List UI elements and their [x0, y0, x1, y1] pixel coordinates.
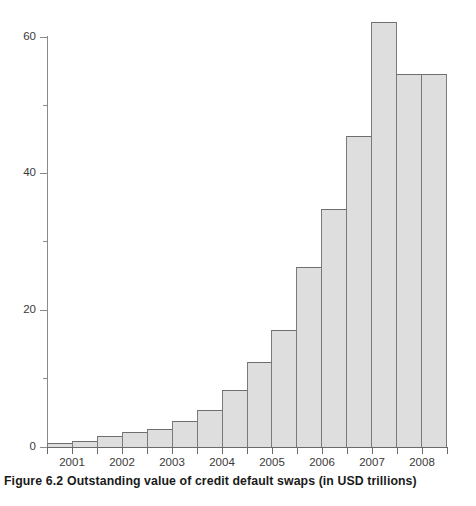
- bar-2005-h2[interactable]: [271, 330, 297, 447]
- bar-2008-h1[interactable]: [396, 74, 422, 447]
- bar-2004-h2[interactable]: [222, 390, 248, 447]
- figure-container: 60 40 20 0: [0, 0, 476, 506]
- bar-2001-h2[interactable]: [72, 441, 98, 447]
- x-tick-label-2007: 2007: [349, 455, 395, 469]
- bar-2006-h1[interactable]: [296, 267, 322, 447]
- x-tick-mark-0: [47, 448, 48, 454]
- x-tick-label-2008: 2008: [399, 455, 445, 469]
- x-tick-mark-3: [122, 448, 123, 454]
- bars-layer: [47, 10, 447, 447]
- x-tick-mark-7: [222, 448, 223, 454]
- bar-2007-h1[interactable]: [346, 136, 372, 447]
- x-tick-mark-14: [397, 448, 398, 454]
- y-tick-label-20: 20: [6, 304, 36, 315]
- x-tick-label-2006: 2006: [299, 455, 345, 469]
- x-tick-label-2003: 2003: [149, 455, 195, 469]
- bar-2008-h2[interactable]: [421, 74, 447, 447]
- figure-number: Figure 6.2: [4, 474, 63, 488]
- y-tick-label-0: 0: [6, 441, 36, 452]
- bar-2007-h2[interactable]: [371, 22, 397, 447]
- bar-2002-h1[interactable]: [97, 436, 123, 447]
- y-tick-label-60: 60: [6, 31, 36, 42]
- bar-2006-h2[interactable]: [321, 209, 347, 447]
- bar-2004-h1[interactable]: [197, 410, 223, 447]
- figure-caption: Figure 6.2Outstanding value of credit de…: [4, 474, 474, 489]
- x-tick-label-2005: 2005: [249, 455, 295, 469]
- x-tick-mark-11: [322, 448, 323, 454]
- x-tick-label-2002: 2002: [99, 455, 145, 469]
- x-tick-mark-12: [347, 448, 348, 454]
- bar-2002-h2[interactable]: [122, 432, 148, 447]
- bar-2005-h1[interactable]: [247, 362, 273, 447]
- x-tick-mark-10: [297, 448, 298, 454]
- figure-caption-text: Outstanding value of credit default swap…: [67, 474, 417, 488]
- x-tick-mark-15: [422, 448, 423, 454]
- plot-area: [47, 10, 447, 447]
- x-tick-mark-2: [97, 448, 98, 454]
- bar-2001-h1[interactable]: [47, 443, 73, 447]
- x-tick-mark-9: [272, 448, 273, 454]
- x-tick-label-2001: 2001: [49, 455, 95, 469]
- x-tick-mark-13: [372, 448, 373, 454]
- bar-2003-h1[interactable]: [147, 429, 173, 447]
- x-tick-mark-6: [197, 448, 198, 454]
- x-tick-label-2004: 2004: [199, 455, 245, 469]
- x-tick-mark-5: [172, 448, 173, 454]
- x-tick-mark-8: [247, 448, 248, 454]
- x-tick-mark-4: [147, 448, 148, 454]
- x-tick-mark-1: [72, 448, 73, 454]
- x-tick-mark-16: [447, 448, 448, 454]
- bar-2003-h2[interactable]: [172, 421, 198, 447]
- y-tick-label-40: 40: [6, 167, 36, 178]
